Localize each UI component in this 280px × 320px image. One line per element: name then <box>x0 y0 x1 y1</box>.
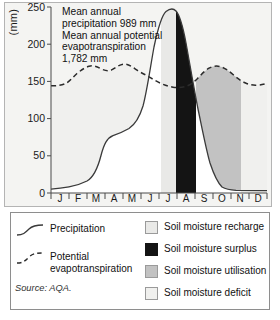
swatch-recharge-icon <box>145 221 158 234</box>
legend-label-soil-moisture-deficit: Soil moisture deficit <box>164 287 251 299</box>
soil-moisture-budget-figure: (mm) 250 200 150 100 50 0 J F M A M J J … <box>0 0 280 320</box>
legend-item-potential-evapotranspiration: Potential evapotranspiration <box>15 251 139 274</box>
y-tick-200: 200 <box>11 38 45 50</box>
solid-curve-icon <box>15 223 45 237</box>
legend-label-precipitation: Precipitation <box>50 223 105 235</box>
x-axis-month-labels: J F M A M J J A S O N D <box>5 193 273 209</box>
legend-item-soil-moisture-deficit: Soil moisture deficit <box>145 287 251 300</box>
x-tick-jul: J <box>159 193 177 204</box>
annotation-line-4: evapotranspiration <box>62 41 180 53</box>
x-tick-jan: J <box>51 193 69 204</box>
x-tick-mar: M <box>87 193 105 204</box>
swatch-deficit-icon <box>145 287 158 300</box>
annotation-line-1: Mean annual <box>62 6 180 18</box>
legend-panel: Precipitation Potential evapotranspirati… <box>10 212 270 310</box>
legend-label-potential-evapotranspiration: Potential evapotranspiration <box>50 251 138 274</box>
dashed-curve-icon <box>15 251 45 265</box>
annotation-line-3: Mean annual potential <box>62 30 180 42</box>
legend-item-soil-moisture-recharge: Soil moisture recharge <box>145 221 264 234</box>
source-note: Source: AQA. <box>15 283 72 293</box>
y-tick-150: 150 <box>11 75 45 87</box>
x-tick-jun: J <box>141 193 159 204</box>
x-tick-apr: A <box>105 193 123 204</box>
x-tick-nov: N <box>231 193 249 204</box>
x-tick-may: M <box>123 193 141 204</box>
annotation-line-2: precipitation 989 mm <box>62 18 180 30</box>
legend-item-precipitation: Precipitation <box>15 223 105 237</box>
chart-panel: (mm) 250 200 150 100 50 0 J F M A M J J … <box>4 2 272 207</box>
legend-label-soil-moisture-recharge: Soil moisture recharge <box>164 221 264 233</box>
legend-label-soil-moisture-surplus: Soil moisture surplus <box>164 243 257 255</box>
legend-label-soil-moisture-utilisation: Soil moisture utilisation <box>164 265 266 277</box>
legend-column-curves: Precipitation Potential evapotranspirati… <box>11 213 141 309</box>
annotation-line-5: 1,782 mm <box>62 53 180 65</box>
x-tick-dec: D <box>249 193 267 204</box>
legend-column-regions: Soil moisture recharge Soil moisture sur… <box>145 213 271 309</box>
legend-item-soil-moisture-surplus: Soil moisture surplus <box>145 243 257 256</box>
swatch-utilisation-icon <box>145 265 158 278</box>
swatch-surplus-icon <box>145 243 158 256</box>
y-tick-250: 250 <box>11 1 45 13</box>
y-tick-50: 50 <box>11 149 45 161</box>
legend-item-soil-moisture-utilisation: Soil moisture utilisation <box>145 265 266 278</box>
x-tick-aug: A <box>177 193 195 204</box>
y-axis-tick-labels: 250 200 150 100 50 0 <box>9 3 45 208</box>
chart-annotation: Mean annual precipitation 989 mm Mean an… <box>62 6 180 65</box>
x-tick-oct: O <box>213 193 231 204</box>
x-tick-sep: S <box>195 193 213 204</box>
x-tick-feb: F <box>69 193 87 204</box>
y-tick-100: 100 <box>11 112 45 124</box>
